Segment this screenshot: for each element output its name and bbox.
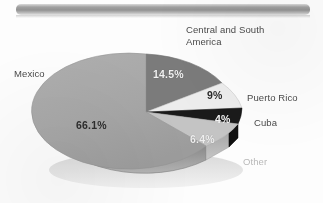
pie-value-mexico: 66.1% (76, 119, 107, 131)
pie-label-cuba: Cuba (254, 117, 277, 129)
pie-label-puerto-rico: Puerto Rico (247, 92, 298, 104)
pie-value-central-and-south-america: 14.5% (153, 68, 184, 80)
pie-value-cuba: 4% (215, 113, 231, 125)
pie-value-puerto-rico: 9% (207, 89, 223, 101)
pie-label-central-and-south-america: Central and South America (186, 24, 282, 47)
pie-value-other: 6.4% (190, 133, 215, 145)
pie-label-other: Other (243, 156, 267, 168)
pie-label-mexico: Mexico (14, 68, 45, 80)
chart-plot-area: Mexico Central and South America Puerto … (0, 0, 323, 203)
pie-chart-figure: Mexico Central and South America Puerto … (0, 0, 323, 203)
